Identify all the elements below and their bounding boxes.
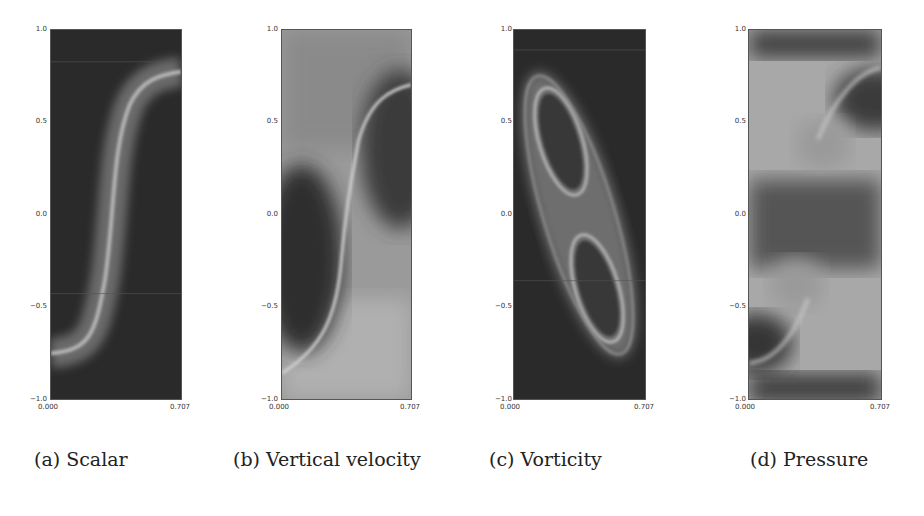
y-tick: −1.0 bbox=[722, 395, 746, 403]
vertical-velocity-heatmap bbox=[281, 29, 412, 400]
caption-d: (d) Pressure bbox=[750, 448, 868, 470]
y-tick: 0.5 bbox=[488, 117, 512, 125]
x-tick: 0.000 bbox=[38, 403, 58, 411]
y-tick: −0.5 bbox=[722, 302, 746, 310]
y-tick: −1.0 bbox=[23, 395, 47, 403]
y-tick: −0.5 bbox=[23, 302, 47, 310]
y-tick: −0.5 bbox=[488, 302, 512, 310]
panel-b-vertical-velocity: 1.0 0.5 0.0 −0.5 −1.0 0.000 0.707 (b) Ve… bbox=[231, 0, 462, 516]
y-tick: 0.0 bbox=[722, 210, 746, 218]
y-tick: 0.5 bbox=[722, 117, 746, 125]
caption-a: (a) Scalar bbox=[34, 448, 128, 470]
y-tick: 1.0 bbox=[722, 25, 746, 33]
y-tick: 0.5 bbox=[254, 117, 278, 125]
vorticity-heatmap bbox=[513, 29, 646, 400]
x-tick: 0.707 bbox=[170, 403, 190, 411]
y-tick: 0.0 bbox=[488, 210, 512, 218]
x-tick: 0.000 bbox=[735, 403, 755, 411]
y-tick: 1.0 bbox=[488, 25, 512, 33]
y-tick: 0.5 bbox=[23, 117, 47, 125]
panel-a-scalar: 1.0 0.5 0.0 −0.5 −1.0 0.000 0.707 (a) Sc… bbox=[0, 0, 231, 516]
y-tick: −0.5 bbox=[254, 302, 278, 310]
y-tick: 1.0 bbox=[23, 25, 47, 33]
x-tick: 0.707 bbox=[870, 403, 890, 411]
panel-d-pressure: 1.0 0.5 0.0 −0.5 −1.0 0.000 0.707 (d) Pr… bbox=[693, 0, 924, 516]
y-tick: −1.0 bbox=[254, 395, 278, 403]
x-tick: 0.707 bbox=[400, 403, 420, 411]
scalar-heatmap bbox=[50, 29, 182, 400]
caption-c: (c) Vorticity bbox=[489, 448, 602, 470]
y-tick: 0.0 bbox=[23, 210, 47, 218]
y-tick: 0.0 bbox=[254, 210, 278, 218]
caption-b: (b) Vertical velocity bbox=[233, 448, 421, 470]
y-tick: −1.0 bbox=[488, 395, 512, 403]
y-tick: 1.0 bbox=[254, 25, 278, 33]
x-tick: 0.000 bbox=[500, 403, 520, 411]
x-tick: 0.000 bbox=[269, 403, 289, 411]
x-tick: 0.707 bbox=[634, 403, 654, 411]
pressure-heatmap bbox=[748, 29, 882, 400]
panel-c-vorticity: 1.0 0.5 0.0 −0.5 −1.0 0.000 0.707 (c) Vo… bbox=[462, 0, 693, 516]
